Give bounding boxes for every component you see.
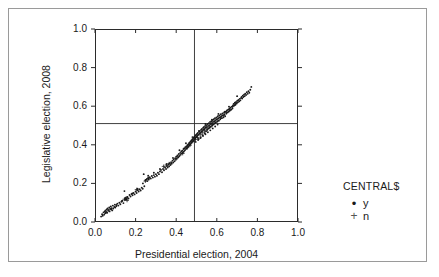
x-tick-label: 0.0 (82, 227, 108, 238)
y-tick-label: 0.8 (61, 62, 87, 73)
x-tick-label: 0.8 (244, 227, 270, 238)
legend-entry: •y (347, 197, 419, 210)
x-tick-label: 0.6 (204, 227, 230, 238)
legend-entry-label: y (363, 197, 369, 210)
legend-entry: +n (347, 210, 419, 223)
x-axis-title: Presidential election, 2004 (95, 248, 298, 260)
plot-canvas (95, 29, 298, 222)
axis-ticks (91, 29, 302, 222)
legend: CENTRAL$ •y+n (343, 180, 419, 223)
x-tick-label: 1.0 (285, 227, 311, 238)
y-tick-label: 0.2 (61, 177, 87, 188)
scatter-chart: 0.00.20.40.60.81.0 0.00.20.40.60.81.0 Pr… (0, 0, 439, 277)
y-tick-label: 0.6 (61, 100, 87, 111)
x-tick-label: 0.2 (123, 227, 149, 238)
legend-entry-label: n (363, 210, 369, 223)
y-axis-title: Legislative election, 2008 (40, 24, 52, 224)
x-tick-label: 0.4 (163, 227, 189, 238)
legend-entries: •y+n (343, 197, 419, 223)
y-tick-label: 0.0 (61, 216, 87, 227)
figure-root: 0.00.20.40.60.81.0 0.00.20.40.60.81.0 Pr… (0, 0, 439, 277)
data-points (100, 86, 252, 218)
legend-title: CENTRAL$ (343, 180, 419, 192)
y-tick-label: 1.0 (61, 23, 87, 34)
reference-lines (95, 29, 298, 222)
plus-marker-icon: + (347, 210, 361, 223)
y-tick-label: 0.4 (61, 139, 87, 150)
